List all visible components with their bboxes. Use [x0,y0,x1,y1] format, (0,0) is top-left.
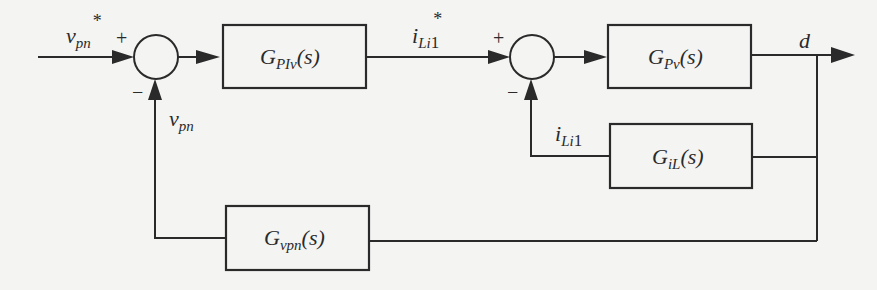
sum2-minus-sign: − [507,81,518,103]
sum1-minus-sign: − [132,81,143,103]
block-gil-label: GiL(s) [652,144,704,172]
arrow-into-sum1 [112,50,134,64]
arrow-into-sum2 [488,50,510,64]
outer-feedback-wire [155,88,226,238]
arrow-into-sum1-bottom [148,79,162,100]
arrow-into-gpiv [196,50,220,64]
signal-ili1-ref: iLi1* [412,9,442,52]
signal-vpn-feedback: vpn [169,106,194,134]
arrow-into-gpv [584,50,607,64]
block-diagram: + − vpn* GPIv(s) iLi1* + − GPv(s) d GiL(… [0,0,877,290]
sum1-plus-sign: + [116,27,127,49]
sum2-plus-sign: + [493,27,504,49]
block-gvpn-label: Gvpn(s) [264,225,325,253]
signal-d: d [799,28,811,53]
block-gpv-label: GPv(s) [648,44,703,72]
arrow-into-sum2-bottom [524,79,538,100]
output-arrow [831,47,855,63]
signal-ili1-feedback: iLi1 [555,121,582,150]
block-gpiv-label: GPIv(s) [260,44,320,72]
signal-vpn-ref: vpn* [66,11,102,51]
summing-junction-1 [134,35,178,79]
summing-junction-2 [510,35,554,79]
